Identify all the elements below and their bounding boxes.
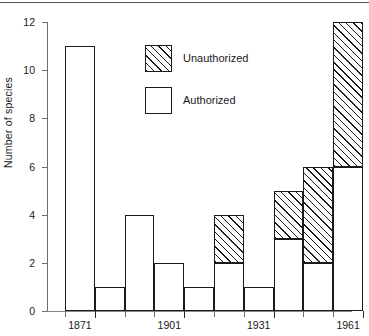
- y-tick-0: 0: [42, 311, 47, 312]
- bar-authorized-5: [184, 287, 214, 311]
- x-tick-boundary-6: [244, 311, 245, 317]
- x-tick-boundary-3: [154, 311, 155, 317]
- x-tick-boundary-0: [65, 311, 66, 317]
- y-tick-label-12: 12: [23, 17, 35, 28]
- legend-item-unauthorized: Unauthorized: [145, 45, 248, 72]
- bar-authorized-2: [95, 287, 125, 311]
- legend-label-authorized: Authorized: [183, 95, 236, 106]
- x-tick-boundary-2: [125, 311, 126, 317]
- x-tick-label-1961: 1961: [336, 320, 359, 331]
- x-tick-1961: [363, 311, 364, 318]
- y-tick-label-8: 8: [29, 113, 35, 124]
- legend-swatch-authorized-icon: [145, 87, 172, 114]
- bar-unauthorized-8: [274, 191, 304, 239]
- bar-authorized-3: [125, 215, 155, 311]
- x-tick-boundary-9: [333, 311, 334, 317]
- bar-authorized-10: [333, 167, 363, 312]
- bar-unauthorized-10: [333, 22, 363, 167]
- bar-authorized-1: [65, 46, 95, 311]
- bar-authorized-6: [214, 263, 244, 311]
- y-tick-label-0: 0: [29, 306, 35, 317]
- bar-unauthorized-9: [303, 167, 333, 263]
- x-tick-1901: [184, 311, 185, 318]
- legend-item-authorized: Authorized: [145, 87, 236, 114]
- y-axis-title: Number of species: [3, 77, 14, 168]
- x-axis-line: [47, 311, 352, 312]
- figure-container: Number of species 12 10 8 6 4 2 0: [0, 0, 369, 336]
- x-tick-1871: [95, 311, 96, 318]
- x-tick-label-1901: 1901: [158, 320, 181, 331]
- y-tick-4: 4: [42, 215, 47, 216]
- x-tick-label-1931: 1931: [247, 320, 270, 331]
- bar-authorized-4: [154, 263, 184, 311]
- legend-swatch-unauthorized-icon: [145, 45, 172, 72]
- y-tick-label-2: 2: [29, 258, 35, 269]
- y-tick-label-10: 10: [23, 65, 35, 76]
- y-tick-12: 12: [42, 22, 47, 23]
- x-tick-1931: [274, 311, 275, 318]
- y-tick-label-4: 4: [29, 209, 35, 220]
- bar-authorized-9: [303, 263, 333, 311]
- y-axis-line: [47, 22, 48, 311]
- x-tick-label-1871: 1871: [68, 320, 91, 331]
- y-tick-8: 8: [42, 118, 47, 119]
- y-tick-10: 10: [42, 70, 47, 71]
- x-tick-boundary-5: [214, 311, 215, 317]
- x-tick-boundary-8: [303, 311, 304, 317]
- bar-unauthorized-6: [214, 215, 244, 263]
- y-tick-2: 2: [42, 263, 47, 264]
- bar-authorized-7: [244, 287, 274, 311]
- bar-authorized-8: [274, 239, 304, 311]
- figure-top-rule: [0, 2, 369, 3]
- legend-label-unauthorized: Unauthorized: [183, 53, 248, 64]
- y-tick-6: 6: [42, 167, 47, 168]
- y-tick-label-6: 6: [29, 161, 35, 172]
